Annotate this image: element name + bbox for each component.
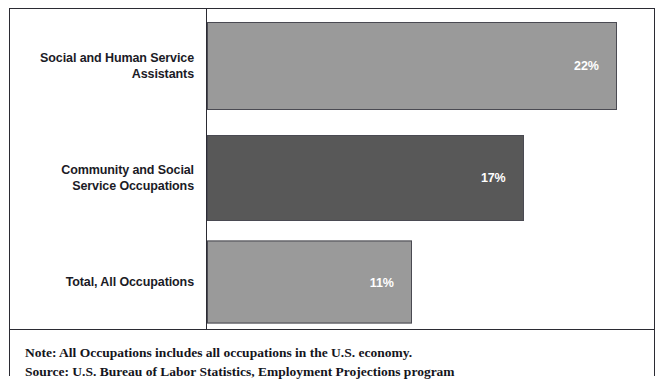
bar-value-label: 17% (481, 171, 523, 185)
category-label: Community and Social Service Occupations (61, 162, 194, 194)
bar-row: 17% (207, 122, 654, 234)
chart-figure: Social and Human Service Assistants Comm… (9, 8, 655, 376)
bar-social-and-human-service-assistants: 22% (207, 22, 617, 110)
chart-footnotes: Note: All Occupations includes all occup… (10, 330, 654, 381)
note-line: Note: All Occupations includes all occup… (25, 343, 654, 362)
bars-container: 22% 17% 11% (207, 9, 654, 330)
source-line: Source: U.S. Bureau of Labor Statistics,… (25, 362, 654, 381)
category-label-column: Social and Human Service Assistants Comm… (10, 9, 206, 330)
category-label: Social and Human Service Assistants (40, 50, 194, 82)
bar-community-and-social-service-occupations: 17% (207, 135, 524, 221)
category-row: Community and Social Service Occupations (10, 122, 206, 234)
bar-value-label: 22% (574, 59, 616, 73)
category-row: Social and Human Service Assistants (10, 9, 206, 122)
category-row: Total, All Occupations (10, 234, 206, 330)
category-label: Total, All Occupations (66, 274, 194, 290)
bar-row: 22% (207, 9, 654, 122)
bar-value-label: 11% (370, 275, 411, 289)
plot-area: Social and Human Service Assistants Comm… (10, 9, 654, 330)
bar-total-all-occupations: 11% (207, 241, 412, 324)
bar-row: 11% (207, 234, 654, 330)
